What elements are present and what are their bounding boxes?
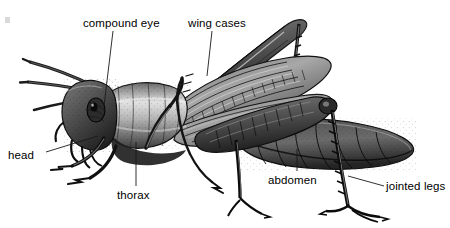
grasshopper-illustration — [0, 0, 450, 228]
head-group — [55, 78, 118, 168]
label-jointed-legs: jointed legs — [386, 180, 445, 193]
label-abdomen: abdomen — [268, 174, 317, 187]
label-thorax: thorax — [117, 189, 150, 202]
label-compound-eye: compound eye — [83, 17, 160, 30]
grasshopper-anatomy-diagram: compound eye wing cases head thorax abdo… — [0, 0, 450, 228]
wing-cases-leader — [207, 31, 212, 76]
label-wing-cases: wing cases — [188, 17, 246, 30]
label-head: head — [8, 149, 34, 162]
jointed-legs-leader — [348, 176, 384, 186]
